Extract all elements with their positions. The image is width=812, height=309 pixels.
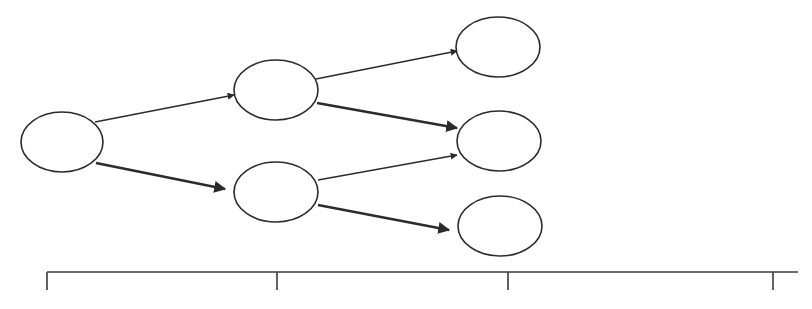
arrow-n2-to-n4 (318, 155, 457, 180)
ellipse-node-shape (21, 112, 103, 172)
arrow-n0-to-n2 (96, 163, 225, 189)
arrow-n1-to-n3 (316, 51, 457, 79)
arrow-n2-to-n5 (318, 205, 449, 230)
ellipse-node-shape (458, 196, 542, 256)
ellipse-node-shape (456, 17, 540, 77)
tree-diagram (0, 0, 812, 309)
node-n5 (458, 196, 542, 256)
nodes-group (21, 17, 542, 256)
ellipse-node-shape (457, 111, 541, 171)
ellipse-node-shape (234, 162, 318, 222)
node-n4 (457, 111, 541, 171)
node-n1 (234, 60, 318, 120)
arrow-n1-to-n4 (317, 103, 457, 128)
ellipse-node-shape (234, 60, 318, 120)
node-n0 (21, 112, 103, 172)
timeline-axis (47, 272, 798, 290)
node-n2 (234, 162, 318, 222)
node-n3 (456, 17, 540, 77)
arrow-n0-to-n1 (95, 95, 234, 122)
